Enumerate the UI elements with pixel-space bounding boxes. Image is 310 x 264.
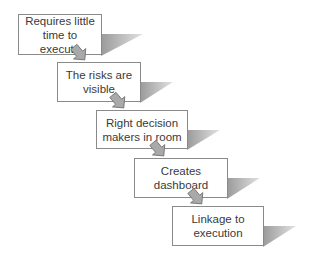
down-right-arrow-icon-4 — [185, 186, 208, 209]
down-right-arrow-icon-3 — [147, 138, 170, 161]
down-right-arrow-icon-2 — [107, 90, 130, 113]
arrow-layer — [0, 0, 310, 264]
staircase-diagram: Requires littletime to execute The risks… — [0, 0, 310, 264]
down-right-arrow-icon-1 — [68, 42, 91, 65]
